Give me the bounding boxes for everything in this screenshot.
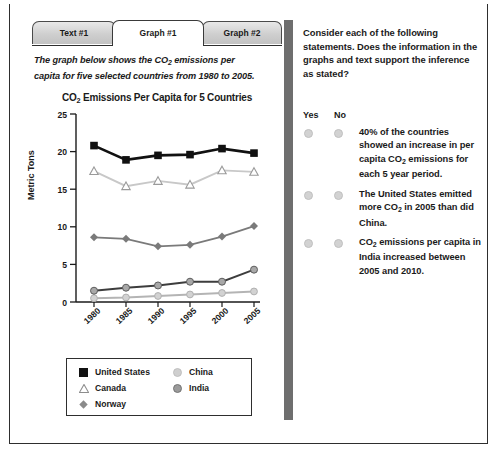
- data-point: [251, 266, 258, 273]
- filled-square-icon: [78, 368, 89, 377]
- x-tick-1985: 1985: [114, 306, 135, 326]
- chart-title-pre: CO: [62, 92, 77, 103]
- tab-graph-2[interactable]: Graph #2: [202, 21, 282, 44]
- filled-circle-gray-icon: [172, 384, 183, 393]
- y-tick-10: 10: [57, 222, 67, 232]
- data-point: [90, 142, 98, 150]
- data-point: [186, 241, 194, 249]
- data-point: [219, 278, 226, 285]
- x-tick-1990: 1990: [146, 306, 167, 326]
- intro-text: The graph below shows the CO2 emissions …: [34, 54, 280, 83]
- statement-3-text: CO2 emissions per capita in India increa…: [359, 236, 481, 278]
- data-point: [155, 293, 162, 300]
- y-tick-0: 0: [62, 298, 67, 308]
- statement-3-no-radio[interactable]: [334, 239, 343, 248]
- chart-legend: United States Canada Norway China: [66, 358, 252, 416]
- statement-2-yes-radio[interactable]: [304, 191, 313, 200]
- data-point: [155, 282, 162, 289]
- data-point: [218, 145, 226, 153]
- series-china: [91, 288, 258, 302]
- legend-item-united-states: United States: [78, 367, 150, 377]
- data-point: [186, 151, 194, 159]
- x-tick-1995: 1995: [178, 306, 199, 326]
- data-point: [154, 242, 162, 250]
- data-point: [250, 149, 258, 157]
- series-india: [91, 266, 258, 294]
- x-tick-2005: 2005: [242, 306, 263, 326]
- data-point: [123, 284, 130, 291]
- y-tick-5: 5: [62, 260, 67, 270]
- tab-bar: Text #1 Graph #2 Graph #1: [32, 20, 282, 46]
- legend-item-canada: Canada: [78, 383, 126, 393]
- question-instruction: Consider each of the following statement…: [303, 26, 481, 80]
- data-point: [122, 235, 130, 243]
- x-tick-1980: 1980: [82, 306, 103, 326]
- data-point: [122, 156, 130, 164]
- series-united-states: [90, 142, 258, 164]
- data-point: [91, 287, 98, 294]
- series-canada: [90, 166, 258, 189]
- data-point: [91, 295, 98, 302]
- tab-graph-2-label: Graph #2: [224, 28, 261, 38]
- panel-divider: [284, 20, 293, 420]
- chart-series-layer: [90, 142, 258, 302]
- chart-title-post: Emissions Per Capita for 5 Countries: [80, 92, 252, 103]
- data-point: [187, 291, 194, 298]
- left-panel: Text #1 Graph #2 Graph #1 The graph belo…: [32, 20, 282, 432]
- data-point: [187, 278, 194, 285]
- y-axis-ticks: 25 20 15 10 5 0: [57, 110, 76, 308]
- data-point: [154, 152, 162, 160]
- data-point: [250, 222, 258, 230]
- no-header: No: [334, 110, 346, 120]
- tab-underline: [32, 45, 282, 46]
- data-point: [251, 288, 258, 295]
- tab-text-1[interactable]: Text #1: [32, 21, 116, 44]
- statement-1-text: 40% of the countries showed an increase …: [359, 126, 481, 182]
- data-point: [123, 294, 130, 301]
- data-point: [219, 290, 226, 297]
- x-tick-2000: 2000: [210, 306, 231, 326]
- series-norway: [90, 222, 258, 250]
- y-tick-20: 20: [57, 147, 67, 157]
- data-point: [90, 167, 98, 175]
- y-tick-15: 15: [57, 185, 67, 195]
- legend-label-norway: Norway: [95, 399, 126, 409]
- legend-label-india: India: [189, 383, 209, 393]
- statement-1-yes-radio[interactable]: [304, 129, 313, 138]
- chart: CO2 Emissions Per Capita for 5 Countries…: [32, 92, 282, 352]
- statement-3-yes-radio[interactable]: [304, 239, 313, 248]
- intro-line-1b: emissions per: [172, 55, 235, 65]
- page-frame: Text #1 Graph #2 Graph #1 The graph belo…: [9, 4, 488, 444]
- y-tick-25: 25: [57, 110, 67, 120]
- filled-diamond-icon: [78, 400, 89, 409]
- statement-2-no-radio[interactable]: [334, 191, 343, 200]
- legend-item-norway: Norway: [78, 399, 126, 409]
- statement-1-no-radio[interactable]: [334, 129, 343, 138]
- intro-line-2: capita for five selected countries from …: [34, 71, 254, 81]
- legend-label-united-states: United States: [95, 367, 150, 377]
- chart-plot: 25 20 15 10 5 0 1980 1985: [32, 106, 282, 352]
- tab-graph-1-label: Graph #1: [140, 28, 177, 38]
- filled-circle-light-icon: [172, 368, 183, 377]
- statement-2-text: The United States emitted more CO2 in 20…: [359, 188, 481, 230]
- chart-title: CO2 Emissions Per Capita for 5 Countries: [32, 92, 282, 105]
- yes-header: Yes: [303, 110, 319, 120]
- tab-text-1-label: Text #1: [60, 28, 89, 38]
- legend-label-canada: Canada: [95, 383, 126, 393]
- question-panel: Consider each of the following statement…: [303, 26, 481, 80]
- tab-graph-1[interactable]: Graph #1: [112, 20, 204, 45]
- data-point: [90, 233, 98, 241]
- legend-label-china: China: [189, 367, 213, 377]
- legend-item-india: India: [172, 383, 209, 393]
- legend-item-china: China: [172, 367, 213, 377]
- data-point: [218, 233, 226, 241]
- intro-line-1a: The graph below shows the CO: [34, 55, 168, 65]
- x-axis-ticks: 1980 1985 1990 1995 2000 2005: [82, 302, 263, 326]
- open-triangle-icon: [78, 384, 89, 393]
